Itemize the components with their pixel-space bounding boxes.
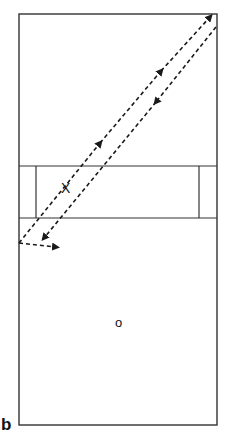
- court-outline: [19, 14, 217, 425]
- path-outbound: [19, 17, 210, 243]
- panel-label: b: [1, 415, 11, 434]
- court-diagram: X o b: [0, 0, 226, 444]
- player-o-label: o: [115, 315, 122, 330]
- path-return: [44, 27, 216, 238]
- path-sidestep: [19, 243, 56, 247]
- net-band: [19, 166, 217, 218]
- player-x-label: X: [61, 180, 71, 196]
